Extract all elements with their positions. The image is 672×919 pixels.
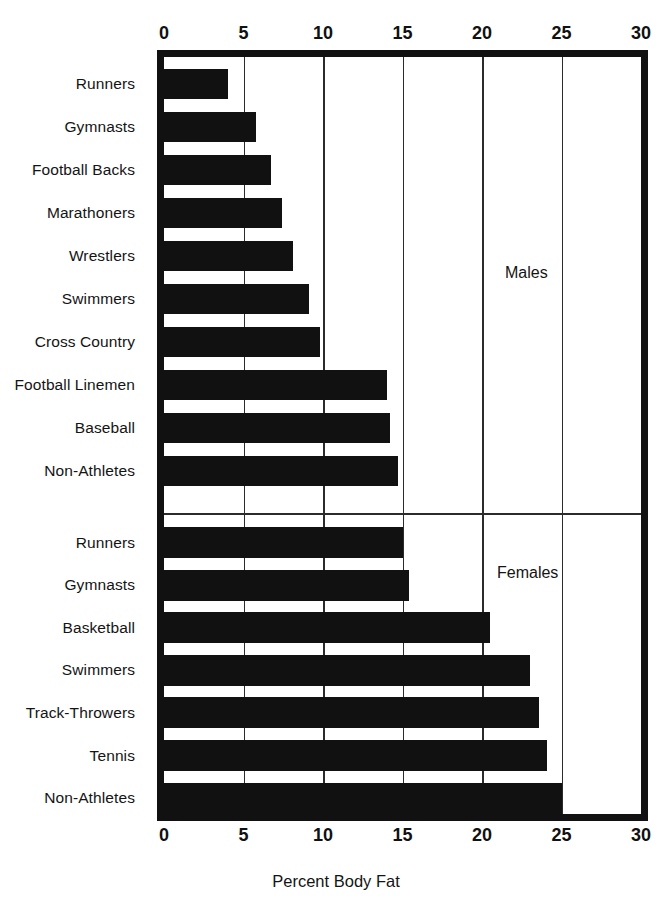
axis-tick-label-30: 30 — [631, 826, 651, 844]
bar — [164, 612, 490, 643]
category-label: Football Backs — [32, 162, 135, 178]
body-fat-bar-chart: 051015202530 RunnersGymnastsFootball Bac… — [0, 0, 672, 919]
axis-tick-label-0: 0 — [159, 826, 169, 844]
category-label: Cross Country — [35, 334, 135, 350]
bar — [164, 570, 409, 601]
category-label: Gymnasts — [64, 119, 135, 135]
axis-tick-label-10: 10 — [313, 24, 333, 42]
group-annotation-males: Males — [505, 265, 548, 281]
bar — [164, 198, 282, 228]
category-label: Non-Athletes — [44, 463, 135, 479]
bar — [164, 697, 539, 728]
category-label: Swimmers — [62, 291, 135, 307]
category-label: Gymnasts — [64, 577, 135, 593]
bar — [164, 783, 562, 814]
axis-tick-label-25: 25 — [551, 24, 571, 42]
category-label: Wrestlers — [69, 248, 135, 264]
bottom-axis-ticks: 051015202530 — [157, 826, 648, 850]
bar — [164, 527, 403, 558]
axis-tick-label-10: 10 — [313, 826, 333, 844]
bar — [164, 413, 390, 443]
bar — [164, 284, 309, 314]
bar — [164, 456, 398, 486]
bar — [164, 155, 271, 185]
category-label: Track-Throwers — [26, 705, 135, 721]
axis-tick-label-30: 30 — [631, 24, 651, 42]
bar — [164, 327, 320, 357]
gridline-25 — [562, 57, 564, 814]
category-label: Runners — [76, 76, 135, 92]
category-label: Baseball — [75, 420, 135, 436]
axis-tick-label-15: 15 — [392, 24, 412, 42]
group-separator-line — [164, 513, 641, 515]
category-label: Swimmers — [62, 662, 135, 678]
bar — [164, 655, 530, 686]
category-label: Basketball — [62, 620, 135, 636]
axis-tick-label-20: 20 — [472, 24, 492, 42]
axis-tick-label-5: 5 — [238, 24, 248, 42]
bar — [164, 740, 547, 771]
category-labels: RunnersGymnastsFootball BacksMarathoners… — [0, 0, 149, 919]
bar — [164, 241, 293, 271]
axis-tick-label-25: 25 — [551, 826, 571, 844]
axis-tick-label-20: 20 — [472, 826, 492, 844]
axis-tick-label-15: 15 — [392, 826, 412, 844]
axis-tick-label-0: 0 — [159, 24, 169, 42]
axis-tick-label-5: 5 — [238, 826, 248, 844]
x-axis-title: Percent Body Fat — [0, 872, 672, 891]
bar — [164, 370, 387, 400]
bar — [164, 112, 256, 142]
category-label: Runners — [76, 535, 135, 551]
group-annotation-females: Females — [497, 565, 558, 581]
bar — [164, 69, 228, 99]
category-label: Tennis — [90, 748, 135, 764]
plot-area — [157, 50, 648, 821]
category-label: Non-Athletes — [44, 790, 135, 806]
category-label: Football Linemen — [14, 377, 135, 393]
top-axis-ticks: 051015202530 — [157, 24, 648, 46]
category-label: Marathoners — [47, 205, 135, 221]
plot-inner — [164, 57, 641, 814]
